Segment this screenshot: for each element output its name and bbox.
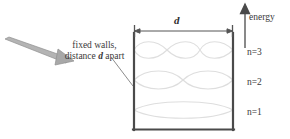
dimension-line-d [135,25,233,37]
standing-wave-n1 [134,102,233,119]
caption-fixed-walls: fixed walls, distance d apart [52,40,137,62]
dimension-arrowhead-left [135,29,141,33]
standing-wave-n2 [134,71,233,89]
level-label-n1: n=1 [247,107,262,118]
particle-in-a-box-diagram: fixed walls, distance d apart d energy n… [0,0,290,139]
standing-wave-n3 [134,42,233,59]
dimension-arrowhead-right [227,29,233,33]
level-label-n2: n=2 [247,77,262,88]
level-label-n3: n=3 [247,47,262,58]
caption-line-2-prefix: distance [65,51,99,61]
caption-line-1: fixed walls, [72,40,116,50]
caption-line-2-suffix: apart [103,51,124,61]
energy-axis-label: energy [249,12,275,23]
diagram-canvas [0,0,290,139]
energy-axis [241,4,250,48]
dimension-label-d: d [174,14,180,27]
